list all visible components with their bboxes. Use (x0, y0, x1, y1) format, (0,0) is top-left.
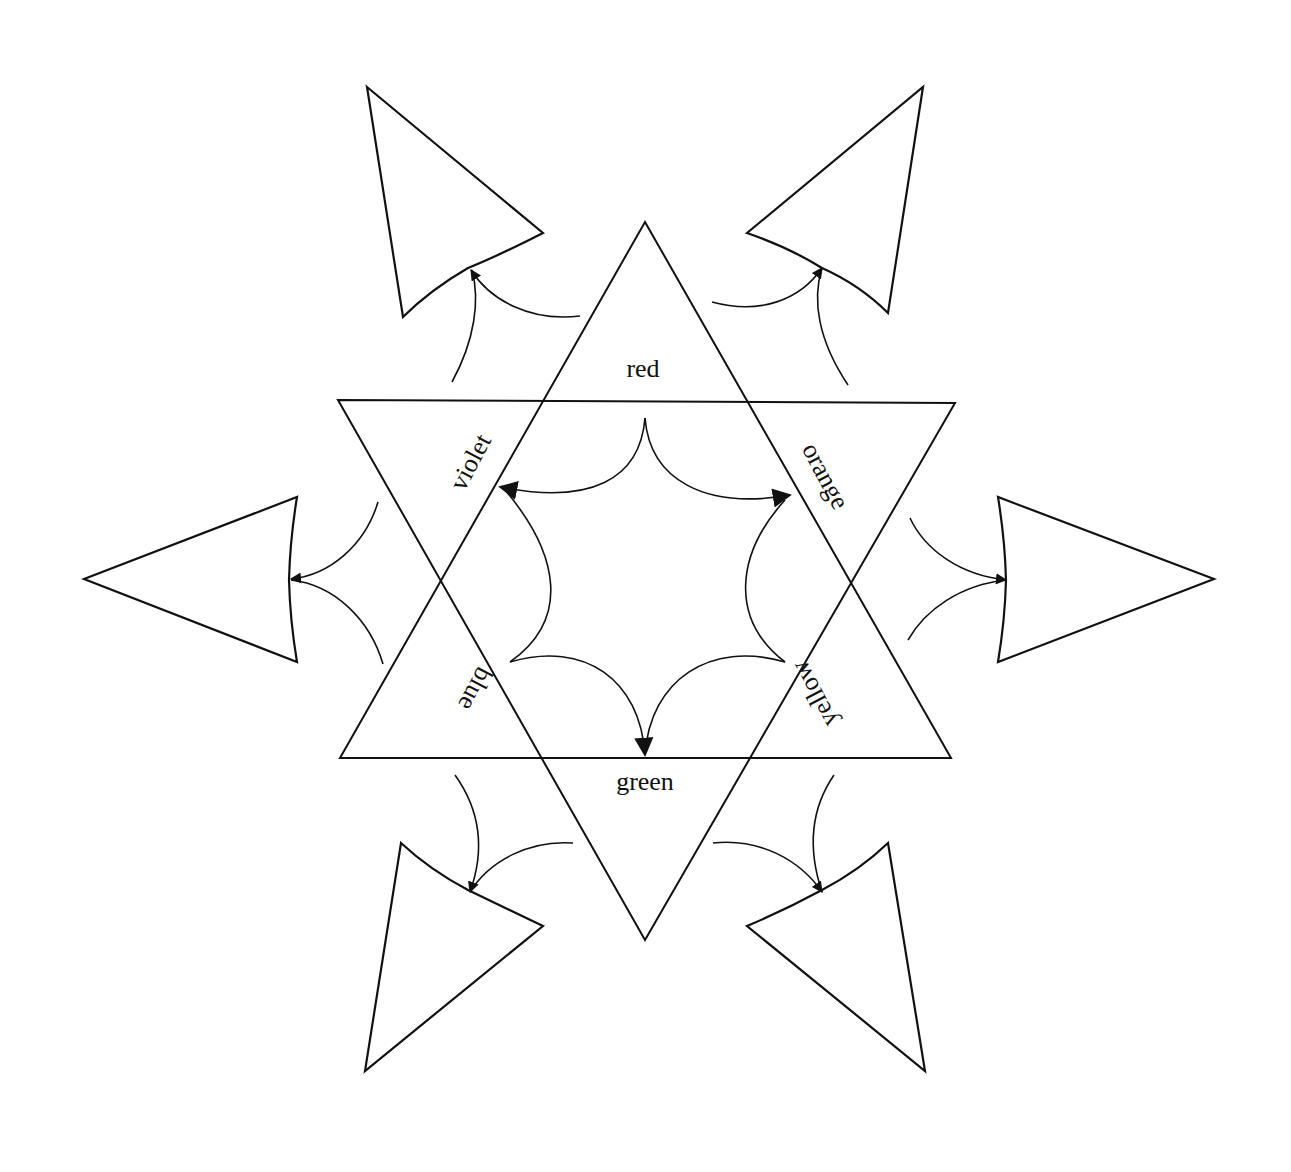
label-green: green (616, 767, 674, 796)
down-triangle (338, 400, 955, 940)
diagram-canvas: red green violet orange blue yellow (0, 0, 1291, 1172)
outer-triangle-top-left (367, 87, 580, 382)
label-yellow: yellow (785, 656, 844, 732)
outer-triangle-right (908, 497, 1214, 662)
outer-triangle-bottom-right (713, 775, 925, 1071)
inner-arrow-ring (500, 418, 790, 755)
label-violet: violet (444, 428, 498, 495)
outer-triangle-top-right (712, 87, 923, 385)
up-triangle (340, 222, 951, 758)
color-star-diagram: red green violet orange blue yellow (0, 0, 1291, 1172)
outer-triangle-bottom-left (365, 775, 573, 1071)
label-red: red (626, 354, 659, 383)
outer-triangle-left (84, 497, 383, 664)
